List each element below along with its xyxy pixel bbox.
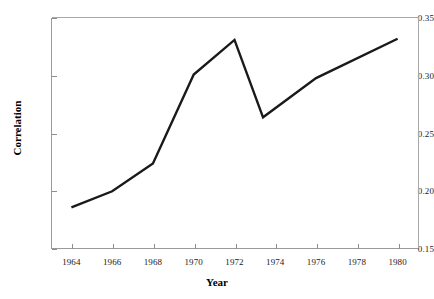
x-axis-tick-label: 1980 xyxy=(378,257,418,267)
x-axis-tick-mark xyxy=(113,244,114,249)
x-axis-title: Year xyxy=(0,276,434,288)
x-axis-tick-label: 1968 xyxy=(133,257,173,267)
y-axis-tick-mark xyxy=(52,191,57,192)
x-axis-tick-mark xyxy=(317,244,318,249)
x-axis-tick-label: 1970 xyxy=(174,257,214,267)
y-axis-tick-mark xyxy=(52,18,57,19)
x-axis-tick-label: 1976 xyxy=(296,257,336,267)
x-axis-tick-mark xyxy=(236,244,237,249)
y-axis-title: Correlation xyxy=(11,68,23,188)
plot-area xyxy=(51,18,418,249)
x-axis-tick-mark xyxy=(195,244,196,249)
x-axis-tick-label: 1966 xyxy=(92,257,132,267)
chart-page: Correlation 0.150.200.250.300.35 1964196… xyxy=(0,0,434,299)
x-axis-tick-label: 1978 xyxy=(337,257,377,267)
x-axis-tick-mark xyxy=(399,244,400,249)
y-axis-tick-mark xyxy=(52,249,57,250)
x-axis-tick-mark xyxy=(154,244,155,249)
x-axis-tick-mark xyxy=(72,244,73,249)
x-axis-tick-label: 1972 xyxy=(215,257,255,267)
x-axis-tick-label: 1964 xyxy=(51,257,91,267)
y-axis-tick-mark xyxy=(52,134,57,135)
y-axis-tick-mark xyxy=(52,76,57,77)
x-axis-tick-mark xyxy=(276,244,277,249)
x-axis-tick-label: 1974 xyxy=(255,257,295,267)
x-axis-tick-mark xyxy=(358,244,359,249)
